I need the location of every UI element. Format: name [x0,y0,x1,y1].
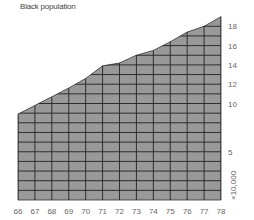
x-tick-label: 73 [132,207,141,216]
x-tick-label: 75 [166,207,175,216]
y-tick-label: 12 [228,80,237,89]
y-tick-label: 10 [228,100,237,109]
y-tick-label: 16 [228,42,237,51]
x-tick-label: 76 [183,207,192,216]
x-tick-label: 66 [14,207,23,216]
x-tick-label: 70 [81,207,90,216]
y-tick-label: 5 [228,148,233,157]
x-tick-label: 67 [30,207,39,216]
x-tick-label: 71 [98,207,107,216]
x-tick-label: 69 [64,207,73,216]
area-chart: 6667686970717273747576777851012141618×10… [0,0,254,220]
x-tick-label: 68 [47,207,56,216]
x-tick-label: 78 [217,207,226,216]
x-tick-label: 72 [115,207,124,216]
y-tick-label: 18 [228,22,237,31]
x-tick-label: 74 [149,207,158,216]
unit-label: ×10,000 [229,170,238,200]
y-tick-label: 14 [228,61,237,70]
x-tick-label: 77 [200,207,209,216]
